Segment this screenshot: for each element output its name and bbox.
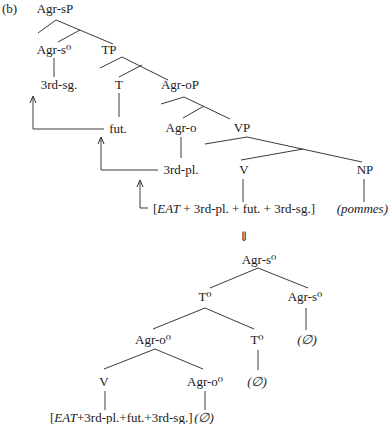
movement-arrow-3 — [137, 180, 148, 208]
verb-eat-bottom: EAT — [53, 410, 77, 424]
node-agr-op: Agr-oP — [161, 77, 199, 92]
node-agr-s0-null: (∅) — [297, 332, 317, 347]
node-v-bottom: V — [99, 374, 109, 389]
object-pommes: (pommes) — [337, 201, 388, 216]
branch-agr-op — [161, 97, 230, 119]
top-tree: Agr-sP Agr-s⁰ TP 3rd-sg. T Agr-oP fut. A… — [30, 1, 388, 216]
node-vp: VP — [234, 120, 251, 135]
node-tp: TP — [101, 42, 116, 57]
node-t0-lower: T⁰ — [250, 332, 263, 347]
branch-vp — [205, 137, 362, 162]
node-agr-o0-null: (∅) — [194, 410, 214, 424]
syntax-tree-diagram: (b) Agr-sP Agr-s⁰ TP 3rd-sg. T Agr-oP fu… — [0, 0, 390, 424]
node-v: V — [239, 162, 249, 177]
node-agr-o0-upper: Agr-o⁰ — [135, 332, 171, 347]
top-terminal-string: [EAT + 3rd-pl. + fut. + 3rd-sg.] — [153, 201, 315, 216]
bottom-terminal-string: [EAT+3rd-pl.+fut.+3rd-sg.] — [50, 410, 193, 424]
node-agr-o: Agr-o — [166, 120, 197, 135]
node-root-agr-s0: Agr-s⁰ — [242, 252, 277, 267]
branch-root — [210, 268, 308, 288]
node-fut: fut. — [109, 121, 127, 136]
node-agr-s0-right: Agr-s⁰ — [288, 289, 323, 304]
node-t0-null: (∅) — [247, 374, 267, 389]
node-agr-s0: Agr-s⁰ — [37, 42, 72, 57]
feature-string: + 3rd-pl. + fut. + 3rd-sg.] — [180, 201, 315, 216]
node-agr-sp: Agr-sP — [37, 1, 74, 16]
verb-eat: EAT — [156, 201, 180, 216]
branch-agr-sp — [38, 20, 113, 44]
node-t: T — [115, 77, 123, 92]
node-t0-upper: T⁰ — [198, 289, 211, 304]
bottom-tree: Agr-s⁰ T⁰ Agr-s⁰ (∅) Agr-o⁰ T⁰ (∅) V Agr… — [50, 252, 322, 424]
branch-tp — [100, 57, 168, 80]
movement-arrow-1 — [30, 96, 104, 129]
node-3rd-sg: 3rd-sg. — [41, 77, 77, 92]
movement-arrow-2 — [98, 137, 158, 170]
node-agr-o0-lower: Agr-o⁰ — [187, 374, 223, 389]
node-np: NP — [357, 162, 374, 177]
figure-label: (b) — [2, 1, 17, 16]
branch-t0-upper — [153, 308, 254, 329]
double-down-arrow-icon: ⇓ — [239, 229, 250, 244]
feature-string-bottom: +3rd-pl.+fut.+3rd-sg.] — [77, 410, 193, 424]
node-3rd-pl: 3rd-pl. — [163, 162, 198, 177]
branch-agr-o0-upper — [104, 349, 203, 369]
